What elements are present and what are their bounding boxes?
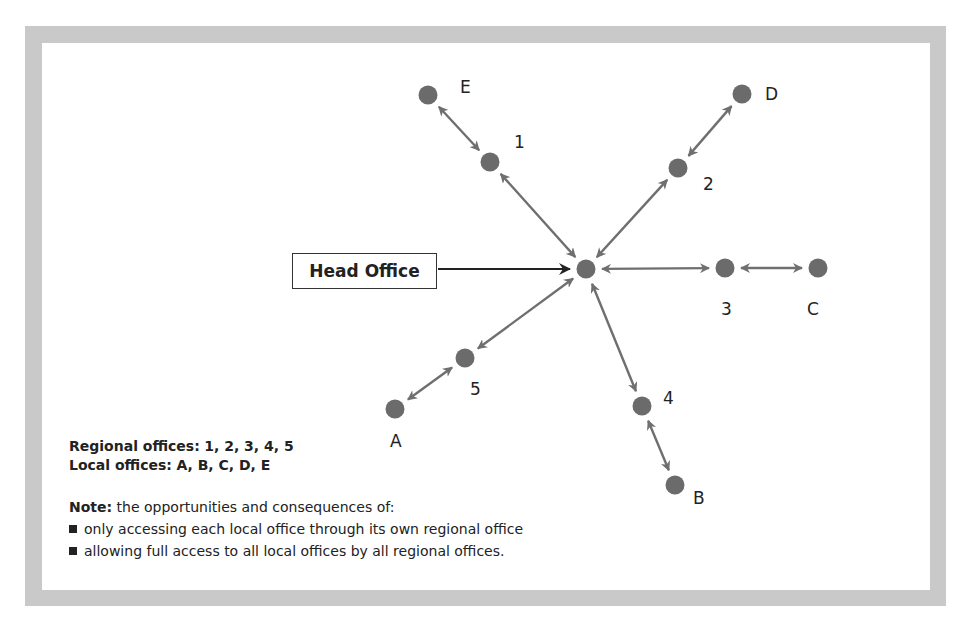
note-block: Note: the opportunities and consequences…	[69, 496, 523, 562]
legend-regional: Regional offices: 1, 2, 3, 4, 5	[69, 437, 294, 456]
regional-office-5-node	[456, 349, 475, 368]
head-office-label-box: Head Office	[292, 253, 437, 289]
local-office-A-label: A	[390, 431, 402, 451]
head-office-label: Head Office	[309, 261, 419, 281]
head-office-node	[577, 260, 596, 279]
regional-office-4-node	[633, 397, 652, 416]
hub-to-regional-4-arrow	[592, 284, 636, 391]
hub-to-regional-5-arrow	[478, 278, 573, 348]
regional-office-2-label: 2	[703, 174, 714, 194]
regional-1-to-local-E-arrow	[439, 107, 479, 151]
regional-office-4-label: 4	[663, 388, 674, 408]
hub-to-regional-3-arrow	[602, 268, 709, 269]
regional-office-3-label: 3	[721, 299, 732, 319]
regional-office-1-node	[481, 153, 500, 172]
connection-arrows	[408, 106, 802, 470]
local-office-D-node	[733, 85, 752, 104]
local-office-E-node	[419, 86, 438, 105]
hub-to-regional-2-arrow	[597, 180, 667, 257]
local-office-C-node	[809, 259, 828, 278]
local-office-B-node	[666, 476, 685, 495]
local-office-C-label: C	[807, 299, 819, 319]
bullet-square-icon	[69, 547, 77, 555]
regional-5-to-local-A-arrow	[408, 367, 452, 399]
legend-local: Local offices: A, B, C, D, E	[69, 456, 294, 475]
bullet-square-icon	[69, 525, 77, 533]
local-office-E-label: E	[460, 77, 471, 97]
local-office-B-label: B	[693, 488, 705, 508]
note-intro: Note: the opportunities and consequences…	[69, 496, 523, 518]
hub-to-regional-1-arrow	[501, 174, 576, 257]
regional-office-3-node	[716, 259, 735, 278]
regional-4-to-local-B-arrow	[648, 421, 669, 470]
local-office-D-label: D	[765, 84, 778, 104]
regional-office-5-label: 5	[470, 379, 481, 399]
note-bullet: only accessing each local office through…	[69, 518, 523, 540]
note-bullet: allowing full access to all local office…	[69, 540, 523, 562]
regional-2-to-local-D-arrow	[688, 106, 731, 156]
legend: Regional offices: 1, 2, 3, 4, 5 Local of…	[69, 437, 294, 475]
office-nodes: 12345ABCDE	[386, 77, 828, 508]
regional-office-1-label: 1	[514, 132, 525, 152]
local-office-A-node	[386, 400, 405, 419]
regional-office-2-node	[669, 159, 688, 178]
